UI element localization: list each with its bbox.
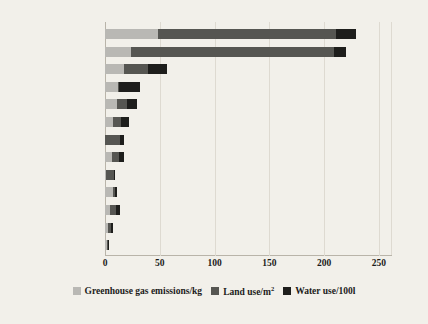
legend-superscript-land: 2 bbox=[271, 285, 274, 292]
stacked-bar[interactable] bbox=[105, 47, 346, 57]
bar-row: Poultry bbox=[105, 152, 392, 162]
bar-segment-land bbox=[124, 64, 148, 74]
x-tick-label-150: 150 bbox=[262, 258, 276, 268]
bar-segment-land bbox=[112, 152, 120, 162]
stacked-bar[interactable] bbox=[105, 187, 117, 197]
bar-segment-ghg bbox=[105, 187, 113, 197]
bar-segment-land bbox=[117, 99, 127, 109]
x-tick-label-100: 100 bbox=[207, 258, 221, 268]
bar-segment-water bbox=[127, 99, 137, 109]
bar-row: Pig meat bbox=[105, 117, 392, 127]
stacked-bar[interactable] bbox=[105, 117, 129, 127]
plot-area: Beef (beef herd)LambBeef (dairy herd)Pra… bbox=[105, 22, 392, 256]
bar-row: Eggs ‡ bbox=[105, 205, 392, 215]
bar-row: Tofu (soybeans) bbox=[105, 223, 392, 233]
bar-segment-ghg bbox=[105, 99, 117, 109]
stacked-bar[interactable] bbox=[105, 29, 356, 39]
stacked-bar[interactable] bbox=[105, 99, 137, 109]
bar-segment-water bbox=[120, 135, 124, 145]
bar-segment-land bbox=[105, 135, 119, 145]
x-axis-line bbox=[105, 255, 392, 256]
bar-segment-water bbox=[108, 240, 109, 250]
stacked-bar[interactable] bbox=[105, 240, 108, 250]
bar-row: Prawn (farmed) bbox=[105, 82, 392, 92]
bar-segment-ghg bbox=[105, 64, 124, 74]
x-tick-label-200: 200 bbox=[317, 258, 331, 268]
bar-segment-water bbox=[336, 29, 356, 39]
bar-segment-ghg bbox=[105, 47, 131, 57]
bar-segment-land bbox=[131, 47, 334, 57]
bar-segment-land bbox=[158, 29, 337, 39]
legend-label-land: Land use/m2 bbox=[223, 285, 274, 297]
x-tick-label-0: 0 bbox=[103, 258, 108, 268]
legend-label-water: Water use/100l bbox=[295, 286, 355, 296]
bar-segment-water bbox=[148, 64, 168, 74]
bar-row: Lamb bbox=[105, 47, 392, 57]
bar-segment-water bbox=[111, 223, 113, 233]
legend-swatch-ghg-icon bbox=[73, 287, 81, 295]
bar-row: Nuts ‡ bbox=[105, 135, 392, 145]
stacked-bar[interactable] bbox=[105, 64, 167, 74]
bar-segment-water bbox=[334, 47, 346, 57]
x-tick-label-250: 250 bbox=[372, 258, 386, 268]
stacked-bar[interactable] bbox=[105, 135, 124, 145]
bar-segment-ghg bbox=[105, 29, 158, 39]
bar-segment-ghg bbox=[105, 82, 118, 92]
chart-root: Beef (beef herd)LambBeef (dairy herd)Pra… bbox=[0, 0, 428, 324]
bar-row: Beef (beef herd) bbox=[105, 29, 392, 39]
legend-item-ghg[interactable]: Greenhouse gas emissions/kg bbox=[73, 286, 203, 296]
stacked-bar[interactable] bbox=[105, 205, 120, 215]
legend-item-land[interactable]: Land use/m2 bbox=[211, 285, 274, 297]
bar-row: Stem-cell meat † bbox=[105, 187, 392, 197]
bar-segment-land bbox=[106, 170, 114, 180]
chart-legend: Greenhouse gas emissions/kg Land use/m2 … bbox=[0, 285, 428, 297]
stacked-bar[interactable] bbox=[105, 223, 113, 233]
bar-row: Insects † bbox=[105, 240, 392, 250]
stacked-bar[interactable] bbox=[105, 152, 124, 162]
stacked-bar[interactable] bbox=[105, 170, 115, 180]
bar-segment-land bbox=[113, 117, 122, 127]
bar-segment-ghg bbox=[105, 117, 113, 127]
legend-swatch-water-icon bbox=[283, 287, 291, 295]
bar-segment-water bbox=[116, 205, 119, 215]
bar-segment-water bbox=[115, 187, 117, 197]
bar-segment-water bbox=[119, 82, 140, 92]
bar-segment-water bbox=[121, 117, 129, 127]
bar-segment-water bbox=[114, 170, 115, 180]
bar-row: Cheese ‡ bbox=[105, 99, 392, 109]
x-tick-label-50: 50 bbox=[155, 258, 165, 268]
stacked-bar[interactable] bbox=[105, 82, 140, 92]
legend-label-ghg: Greenhouse gas emissions/kg bbox=[85, 286, 203, 296]
legend-item-water[interactable]: Water use/100l bbox=[283, 286, 355, 296]
bar-segment-water bbox=[119, 152, 123, 162]
legend-swatch-land-icon bbox=[211, 287, 219, 295]
bar-row: Pulses bbox=[105, 170, 392, 180]
bar-row: Beef (dairy herd) bbox=[105, 64, 392, 74]
